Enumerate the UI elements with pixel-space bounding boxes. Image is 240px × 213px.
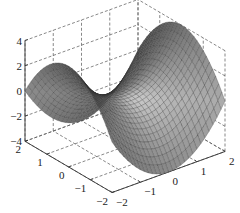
y-tick [25,140,28,141]
y-tick [112,192,115,193]
z-tick [25,40,28,41]
z-tick-label: 2 [17,60,23,72]
x-tick-label: −2 [116,196,128,208]
x-tick-label: 0 [173,175,179,187]
z-tick [25,115,28,116]
x-tick-label: −1 [144,185,156,197]
y-tick-label: −1 [75,182,87,194]
x-tick-label: 2 [229,155,235,167]
z-tick-label: 4 [17,35,23,47]
y-tick-label: 0 [59,169,65,181]
saddle-surface-plot: −4−2024−2−1012−2−1012 [0,0,240,213]
y-tick-label: −2 [96,195,108,207]
x-tick-label: 1 [201,165,207,177]
y-tick [90,179,93,180]
z-tick-label: 0 [17,85,23,97]
y-tick [47,153,50,154]
z-tick [25,65,28,66]
y-tick-label: 1 [37,156,43,168]
z-tick-label: −2 [10,110,22,122]
surface-mesh [25,22,225,174]
y-tick [69,166,72,167]
y-tick-label: 2 [16,143,22,155]
